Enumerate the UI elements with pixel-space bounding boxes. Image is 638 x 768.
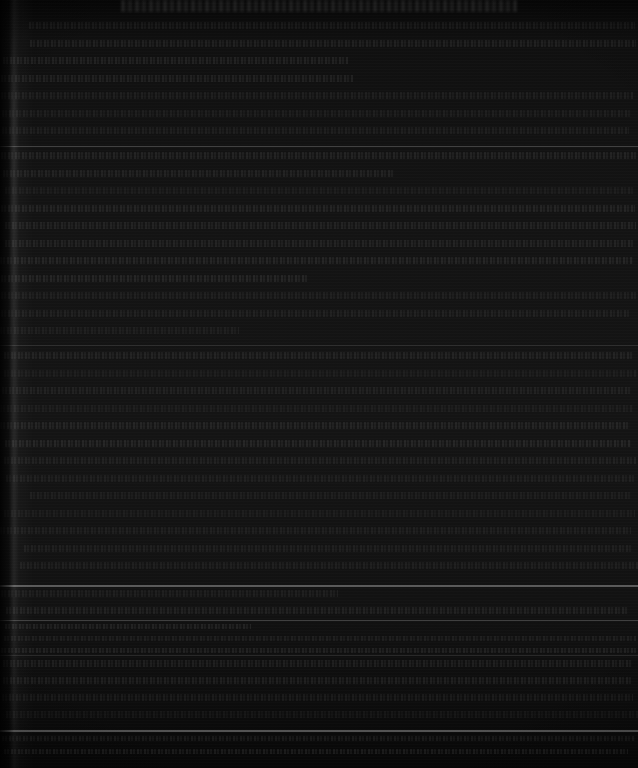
text-line [0,422,630,429]
text-line [5,240,633,247]
text-line [20,562,638,569]
text-line [2,110,631,117]
text-line [5,624,251,629]
text-line [6,711,638,718]
text-line [5,440,631,447]
text-line [5,187,633,194]
text-line [4,749,628,754]
text-line [0,257,633,264]
text-line [1,275,307,282]
text-line [0,527,631,534]
text-line [1,75,353,82]
text-line [2,736,635,741]
text-line [29,22,635,29]
text-line [6,607,628,614]
text-line [1,590,338,597]
text-line [0,327,239,334]
text-line [2,694,633,701]
text-line [30,40,636,47]
text-line [2,387,631,394]
text-line [4,636,636,641]
text-line [30,492,631,499]
section-rule-4 [0,620,638,621]
text-line [4,352,633,359]
text-line [3,170,394,177]
text-line [1,292,636,299]
section-rule-3 [0,585,638,587]
text-line [3,677,631,684]
text-line [3,660,632,667]
text-line [5,222,636,229]
text-line [4,370,637,377]
text-line [1,152,637,159]
text-line [3,57,348,64]
scanned-page: Severely underexposed scan; no glyph is … [0,0,638,768]
section-rule-1 [0,146,638,147]
text-line [6,475,634,482]
text-line [1,205,635,212]
text-line [1,92,633,99]
cropped-heading [121,0,517,12]
text-line [2,127,629,134]
text-line [1,648,637,653]
text-line [24,545,632,552]
text-line [0,405,633,412]
footer-rule [0,730,638,732]
text-line [4,457,636,464]
section-rule-5 [0,655,638,656]
section-rule-2 [0,345,638,346]
text-line [4,510,635,517]
text-line [1,310,629,317]
